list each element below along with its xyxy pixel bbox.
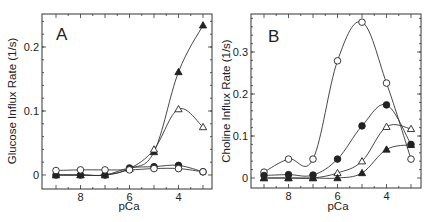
y-tick-label: 0.3 (233, 46, 248, 58)
chart-panel-b: B Choline Influx Rate (1/s) pCa 86400.10… (220, 14, 421, 212)
panel-letter-a: A (56, 25, 68, 44)
y-tick-label: 0 (33, 169, 39, 181)
data-point-open-circle (151, 165, 158, 172)
x-tick-label: 6 (126, 191, 132, 203)
x-tick-label: 8 (285, 190, 291, 202)
y-axis-label-a: Glucose Influx Rate (1/s) (6, 38, 18, 165)
data-point-open-circle (126, 167, 133, 174)
series-line-filled-triangle (56, 25, 203, 175)
data-point-filled-triangle (383, 146, 390, 152)
figure: A Glucose Influx Rate (1/s) pCa 86400.10… (0, 0, 434, 222)
axes-a: 86400.10.2 (24, 14, 212, 203)
y-tick-label: 0.2 (24, 41, 39, 53)
plot-area-a (52, 22, 206, 179)
y-tick-label: 0.1 (24, 105, 39, 117)
data-point-filled-triangle (199, 22, 206, 28)
x-tick-label: 4 (383, 190, 389, 202)
y-tick-label: 0 (242, 172, 248, 184)
plot-frame-a (42, 14, 212, 189)
x-tick-label: 6 (334, 190, 340, 202)
y-tick-label: 0.1 (233, 130, 248, 142)
data-point-filled-circle (334, 156, 341, 163)
data-point-open-circle (200, 169, 207, 176)
data-point-open-circle (77, 167, 84, 174)
data-point-open-circle (359, 19, 366, 26)
data-point-filled-circle (359, 123, 366, 130)
x-tick-label: 8 (77, 191, 83, 203)
data-point-open-circle (102, 167, 109, 174)
x-tick-label: 4 (175, 191, 181, 203)
chart-panel-a: A Glucose Influx Rate (1/s) pCa 86400.10… (6, 14, 212, 212)
data-point-filled-circle (383, 102, 390, 109)
data-point-open-circle (408, 156, 415, 163)
data-point-open-circle (53, 167, 60, 174)
data-point-open-triangle (383, 123, 390, 129)
panel-letter-b: B (268, 27, 279, 46)
data-point-filled-triangle (358, 169, 365, 175)
data-point-open-circle (310, 156, 317, 163)
data-point-open-circle (334, 58, 341, 65)
data-point-filled-triangle (175, 68, 182, 74)
series-line-filled-circle (264, 104, 411, 176)
data-point-open-circle (383, 80, 390, 87)
data-point-open-circle (285, 156, 292, 163)
y-tick-label: 0.2 (233, 88, 248, 100)
plot-area-b (260, 19, 414, 181)
y-axis-label-b: Choline Influx Rate (1/s) (220, 39, 232, 163)
data-point-open-circle (175, 165, 182, 172)
